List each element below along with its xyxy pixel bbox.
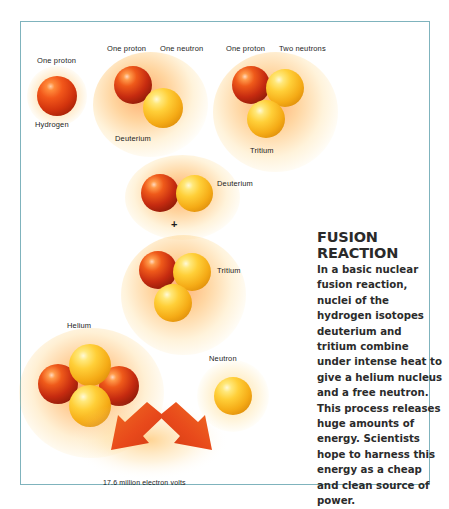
article-body: In a basic nuclear fusion reaction, nucl… [317, 262, 443, 509]
figure-frame: One proton Hydrogen One proton One neutr… [20, 21, 430, 485]
energy-output-label: 17.6 million electron volts [103, 479, 186, 486]
article-title: FUSION REACTION [317, 229, 449, 261]
